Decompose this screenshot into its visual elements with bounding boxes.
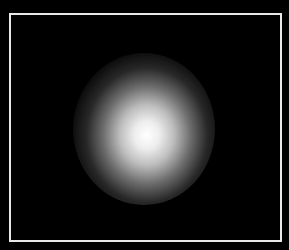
bright-glow-spot xyxy=(73,53,215,205)
image-frame xyxy=(9,13,282,242)
